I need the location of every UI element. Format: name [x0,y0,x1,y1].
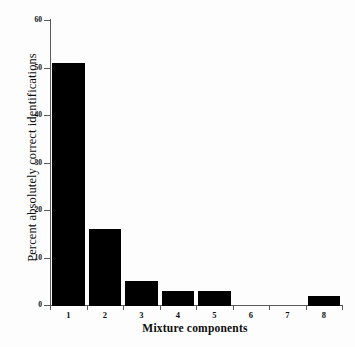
bar-chart-figure: Percent absolutely correct identificatio… [0,0,355,347]
x-axis-tick-label: 8 [314,310,334,320]
x-axis-tick [233,305,234,310]
y-axis-tick [44,68,50,69]
y-axis-tick-label: 20 [22,206,42,214]
x-axis-tick [342,305,343,310]
x-axis-tick [306,305,307,310]
x-axis-tick-label: 2 [95,310,115,320]
x-axis-title: Mixture components [50,322,340,334]
bar [198,291,231,306]
x-axis-tick-label: 6 [241,310,261,320]
y-axis-tick [44,20,50,21]
x-axis-tick-label: 4 [168,310,188,320]
y-axis-tick-label: 40 [22,111,42,119]
y-axis-tick-label: 10 [22,254,42,262]
y-axis-tick [44,210,50,211]
y-axis-tick [44,258,50,259]
x-axis-tick-label: 5 [204,310,224,320]
y-axis-tick [44,163,50,164]
x-axis-tick [50,305,51,310]
y-axis-tick-label: 50 [22,64,42,72]
y-axis-tick-label: 60 [22,16,42,24]
y-axis-tick-label: 30 [22,159,42,167]
bar [89,229,122,306]
y-axis-tick-label: 0 [22,301,42,309]
x-axis-tick [160,305,161,310]
x-axis-tick-label: 3 [131,310,151,320]
bar [162,291,195,306]
x-axis-tick [196,305,197,310]
x-axis-tick [87,305,88,310]
x-axis-tick-label: 1 [58,310,78,320]
bar [52,63,85,306]
bar [125,281,158,306]
x-axis-tick [269,305,270,310]
x-axis-tick [123,305,124,310]
y-axis-tick [44,115,50,116]
bar [308,296,341,307]
x-axis-tick-label: 7 [277,310,297,320]
